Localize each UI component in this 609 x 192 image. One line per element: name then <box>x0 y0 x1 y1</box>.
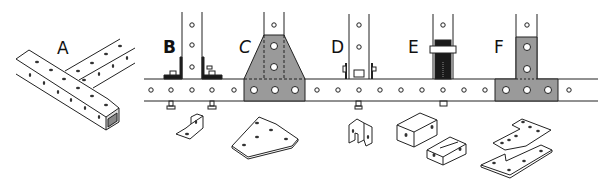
diagram-canvas <box>0 0 609 192</box>
label-f: F <box>494 37 504 57</box>
diagram-svg <box>0 0 609 192</box>
label-e: E <box>408 37 419 57</box>
label-d: D <box>331 37 344 57</box>
panel-c-gusset-plate <box>232 12 305 159</box>
label-b: B <box>163 37 176 57</box>
label-c: C <box>239 37 251 57</box>
panel-a-tube-junction <box>16 39 135 130</box>
panel-d-u-bracket <box>343 14 376 146</box>
panel-b-angle-bracket <box>164 12 222 139</box>
label-a: A <box>57 38 69 58</box>
panel-f-t-plate <box>481 14 558 178</box>
